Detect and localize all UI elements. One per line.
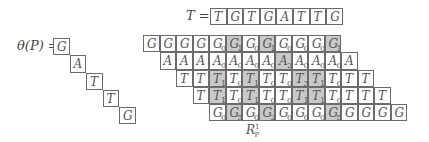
grid-cell: T <box>358 70 375 87</box>
cell-char: G <box>345 106 355 120</box>
cell-char: T <box>107 92 115 106</box>
grid-cell: G0 <box>308 35 325 52</box>
cell-char: T <box>362 72 370 86</box>
cell-char: T <box>362 89 370 103</box>
grid-cell: T <box>193 87 210 104</box>
grid-cell: A2 <box>275 52 292 69</box>
grid-cell: G5 <box>325 104 342 121</box>
grid-cell: G <box>358 104 375 121</box>
grid-cell: T0 <box>226 87 243 104</box>
cell-char: G <box>378 106 388 120</box>
theta-cell: G <box>119 107 136 124</box>
grid-cell: G0 <box>275 104 292 121</box>
grid-cell: T3 <box>292 70 309 87</box>
cell-char: G <box>395 106 405 120</box>
cell-char: T <box>197 72 205 86</box>
cell-char: G <box>57 40 67 54</box>
grid-cell: T1 <box>242 70 259 87</box>
cell-char: A <box>197 54 206 68</box>
theta-cell: T <box>103 90 120 107</box>
cell-char: G <box>264 10 274 24</box>
grid-cell: T <box>341 70 358 87</box>
cell-char: T <box>246 89 254 103</box>
grid-cell: G0 <box>275 35 292 52</box>
grid-cell: G1 <box>226 35 243 52</box>
grid-cell: T1 <box>292 87 309 104</box>
grid-cell: T <box>193 70 210 87</box>
grid-cell: T1 <box>308 87 325 104</box>
theta-cell: A <box>70 55 87 72</box>
grid-cell: T1 <box>308 70 325 87</box>
grid-cell: A0 <box>325 52 342 69</box>
cell-char: T <box>263 72 271 86</box>
theta-cell: G <box>53 38 70 55</box>
cell-char: T <box>197 89 205 103</box>
grid-cell: T <box>374 87 391 104</box>
cell-char: T <box>345 72 353 86</box>
grid-cell: G0 <box>292 104 309 121</box>
cell-char: G <box>197 37 207 51</box>
grid-cell: G0 <box>242 35 259 52</box>
grid-cell: G1 <box>325 35 342 52</box>
grid-cell: T0 <box>325 87 342 104</box>
text-cell: T <box>210 8 227 25</box>
grid-cell: T <box>358 87 375 104</box>
cell-char: T <box>247 10 255 24</box>
grid-cell: A <box>341 52 358 69</box>
grid-cell: G <box>143 35 160 52</box>
cell-char: T <box>263 89 271 103</box>
grid-cell: T0 <box>275 87 292 104</box>
cell-char: T <box>90 75 98 89</box>
cell-char: T <box>296 72 304 86</box>
cell-char: T <box>296 89 304 103</box>
cell-char: T <box>329 89 337 103</box>
grid-cell: G <box>160 35 177 52</box>
text-cell: T <box>310 8 327 25</box>
grid-cell: A <box>160 52 177 69</box>
cell-char: A <box>345 54 354 68</box>
cell-char: T <box>314 10 322 24</box>
text-cell: G <box>326 8 343 25</box>
grid-cell: T1 <box>209 70 226 87</box>
text-cell: T <box>293 8 310 25</box>
cell-char: G <box>147 37 157 51</box>
grid-cell: A0 <box>226 52 243 69</box>
grid-cell: G0 <box>242 104 259 121</box>
grid-cell: G <box>374 104 391 121</box>
cell-char: A <box>280 10 289 24</box>
grid-cell: T1 <box>242 87 259 104</box>
grid-cell: A <box>176 52 193 69</box>
cell-char: G <box>180 37 190 51</box>
cell-char: G <box>164 37 174 51</box>
grid-cell: A0 <box>259 52 276 69</box>
grid-cell: A <box>193 52 210 69</box>
cell-char: T <box>213 89 221 103</box>
cell-char: T <box>297 10 305 24</box>
cell-char: T <box>180 72 188 86</box>
grid-cell: T0 <box>275 70 292 87</box>
theta-cell: T <box>86 73 103 90</box>
grid-cell: G5 <box>226 104 243 121</box>
text-label: T = <box>186 8 210 23</box>
grid-cell: T1 <box>209 87 226 104</box>
cell-char: A <box>164 54 173 68</box>
grid-cell: G0 <box>292 35 309 52</box>
cell-char: G <box>231 10 241 24</box>
grid-cell: A0 <box>308 52 325 69</box>
grid-cell: G1 <box>259 35 276 52</box>
cell-char: G <box>362 106 372 120</box>
grid-cell: A0 <box>209 52 226 69</box>
cell-char: T <box>345 89 353 103</box>
grid-cell: T <box>176 70 193 87</box>
grid-cell: G0 <box>308 104 325 121</box>
cell-char: G <box>330 10 340 24</box>
grid-cell: G <box>341 104 358 121</box>
grid-cell: G2 <box>259 104 276 121</box>
cell-char: T <box>279 72 287 86</box>
cell-char: T <box>214 10 222 24</box>
grid-cell: T0 <box>226 70 243 87</box>
cell-char: T <box>329 72 337 86</box>
grid-cell: T0 <box>259 70 276 87</box>
grid-cell: G <box>391 104 408 121</box>
grid-cell: A0 <box>292 52 309 69</box>
